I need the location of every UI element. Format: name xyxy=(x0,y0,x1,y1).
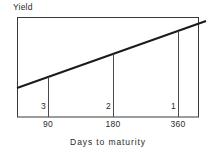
segment-label-2: 2 xyxy=(97,101,111,111)
x-tick-label-90: 90 xyxy=(33,119,63,129)
y-axis-label: Yield xyxy=(13,2,33,12)
segment-label-3: 3 xyxy=(32,101,46,111)
chart-figure: Yield Days to maturity 90 180 360 3 2 1 xyxy=(0,0,216,156)
yield-curve-plot xyxy=(0,0,216,156)
x-axis-label: Days to maturity xyxy=(0,137,216,147)
segment-label-1: 1 xyxy=(162,101,176,111)
figure-background xyxy=(0,0,216,156)
x-tick-label-360: 360 xyxy=(163,119,193,129)
x-tick-label-180: 180 xyxy=(98,119,128,129)
